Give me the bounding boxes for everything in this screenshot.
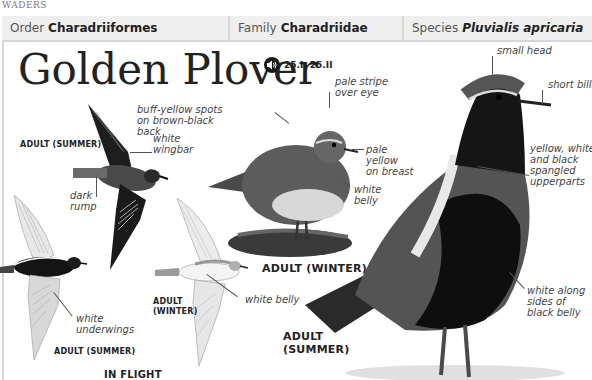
flight-summer-under-illustration bbox=[0, 195, 90, 365]
standing-summer-label: ADULT (SUMMER) bbox=[283, 330, 349, 356]
taxonomy-family: Family Charadriidae bbox=[230, 16, 404, 40]
spangled-annotation: yellow, white, and black spangled upperp… bbox=[530, 143, 592, 187]
short-bill-leader bbox=[542, 90, 543, 104]
taxonomy-species: Species Pluvialis apricaria bbox=[404, 16, 592, 40]
short-bill-label: short bill bbox=[548, 79, 592, 90]
taxonomy-order: Order Charadriiformes bbox=[2, 16, 230, 40]
underwings-annotation: white underwings bbox=[76, 313, 134, 335]
section-label: WADERS bbox=[2, 0, 47, 10]
in-flight-caption: IN FLIGHT bbox=[104, 368, 162, 380]
order-key: Order bbox=[10, 21, 44, 35]
white-along-annotation: white along sides of black belly bbox=[527, 285, 585, 318]
species-value: Pluvialis apricaria bbox=[462, 21, 583, 35]
flight-winter-label: ADULT (WINTER) bbox=[153, 297, 198, 317]
rump-leader bbox=[96, 175, 97, 197]
taxonomy-bar: Order Charadriiformes Family Charadriida… bbox=[2, 16, 592, 42]
flight-summer-top-label: ADULT (SUMMER) bbox=[20, 140, 101, 150]
flight-summer-under-label: ADULT (SUMMER) bbox=[54, 347, 135, 357]
small-head-label: small head bbox=[497, 45, 552, 56]
flight-winter-belly-annotation: white belly bbox=[245, 294, 300, 305]
family-key: Family bbox=[238, 21, 277, 35]
small-head-leader bbox=[492, 56, 493, 76]
species-key: Species bbox=[412, 21, 458, 35]
family-value: Charadriidae bbox=[281, 21, 368, 35]
order-value: Charadriiformes bbox=[48, 21, 157, 35]
speaker-icon[interactable] bbox=[264, 57, 280, 73]
wingbar-leader bbox=[130, 152, 152, 153]
buff-spots-annotation: buff-yellow spots on brown-black back bbox=[137, 104, 222, 137]
